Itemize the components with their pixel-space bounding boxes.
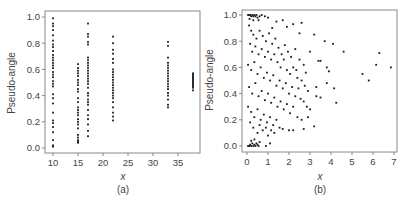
data-point: [266, 122, 268, 124]
data-point: [52, 112, 54, 114]
data-point: [167, 92, 169, 94]
data-point: [52, 126, 54, 128]
data-point: [253, 139, 255, 141]
data-point: [326, 82, 328, 84]
data-point: [335, 102, 337, 104]
data-point: [87, 87, 89, 89]
data-point: [257, 17, 259, 19]
data-point: [52, 17, 54, 19]
data-point: [260, 67, 262, 69]
data-point: [362, 73, 364, 75]
data-point: [52, 62, 54, 64]
data-point: [52, 80, 54, 82]
data-point: [294, 95, 296, 97]
x-tick-label: 4: [328, 156, 333, 167]
data-point: [77, 91, 79, 93]
y-tick-label: 0.2: [224, 114, 237, 125]
data-point: [261, 14, 263, 16]
data-point: [52, 146, 54, 148]
x-tick-label: 1: [265, 156, 270, 167]
data-point: [167, 80, 169, 82]
data-point: [320, 97, 322, 99]
plot-frame: [45, 11, 200, 153]
data-point: [251, 93, 253, 95]
data-point: [112, 71, 114, 73]
y-tick-label: 0.0: [27, 142, 40, 153]
data-point: [112, 101, 114, 103]
data-point: [87, 23, 89, 25]
x-tick-label: 6: [370, 156, 375, 167]
data-point: [112, 120, 114, 122]
data-point: [112, 42, 114, 44]
data-point: [328, 70, 330, 72]
data-point: [257, 132, 259, 134]
data-point: [300, 98, 302, 100]
data-point: [87, 70, 89, 72]
data-point: [282, 87, 284, 89]
data-point: [249, 122, 251, 124]
data-point: [112, 92, 114, 94]
data-point: [284, 44, 286, 46]
x-tick-label: 35: [173, 157, 184, 168]
data-point: [267, 17, 269, 19]
data-point: [77, 114, 79, 116]
data-point: [77, 88, 79, 90]
data-point: [52, 57, 54, 59]
data-point: [273, 132, 275, 134]
data-point: [278, 47, 280, 49]
data-point: [283, 108, 285, 110]
data-point: [87, 135, 89, 137]
data-point: [263, 77, 265, 79]
data-point: [112, 84, 114, 86]
data-point: [112, 49, 114, 51]
data-point: [167, 106, 169, 108]
data-point: [77, 118, 79, 120]
data-point: [77, 63, 79, 65]
data-point: [77, 84, 79, 86]
x-tick-label: 5: [349, 156, 354, 167]
data-point: [52, 59, 54, 61]
data-point: [299, 59, 301, 61]
data-point: [52, 120, 54, 122]
data-point: [273, 53, 275, 55]
data-point: [281, 53, 283, 55]
data-point: [261, 90, 263, 92]
data-point: [77, 70, 79, 72]
data-point: [343, 51, 345, 53]
data-point: [259, 141, 261, 143]
data-point: [270, 59, 272, 61]
data-point: [282, 19, 284, 21]
data-point: [280, 67, 282, 69]
data-point: [258, 95, 260, 97]
data-point: [307, 90, 309, 92]
data-point: [277, 61, 279, 63]
data-point: [274, 38, 276, 40]
data-point: [301, 119, 303, 121]
data-point: [87, 92, 89, 94]
data-point: [112, 97, 114, 99]
data-point: [167, 70, 169, 72]
data-point: [87, 33, 89, 35]
y-tick-label: 0.2: [27, 116, 40, 127]
x-tick-label: 3: [307, 156, 312, 167]
data-point: [87, 130, 89, 132]
data-point: [87, 62, 89, 64]
data-point: [247, 106, 249, 108]
data-point: [252, 34, 254, 36]
y-tick-label: 0.4: [27, 90, 40, 101]
data-point: [167, 104, 169, 106]
panel-b-scatter: 0.00.20.40.60.81.001234567: [224, 9, 397, 167]
data-point: [87, 72, 89, 74]
data-point: [269, 142, 271, 144]
data-point: [272, 74, 274, 76]
data-point: [279, 80, 281, 82]
data-point: [167, 75, 169, 77]
data-point: [192, 87, 194, 89]
data-point: [255, 82, 257, 84]
data-point: [87, 83, 89, 85]
data-point: [286, 103, 288, 105]
y-tick-label: 0.8: [224, 36, 237, 47]
plot-frame: [242, 10, 397, 152]
data-point: [77, 106, 79, 108]
data-point: [52, 25, 54, 27]
